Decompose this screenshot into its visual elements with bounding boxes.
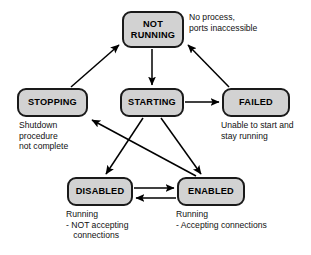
state-node-failed[interactable]: FAILED: [222, 88, 290, 117]
state-node-enabled-label: ENABLED: [188, 186, 234, 197]
edge-starting-to-enabled: [161, 118, 201, 174]
state-node-disabled[interactable]: DISABLED: [67, 177, 133, 206]
caption-disabled: Running - NOT accepting connections: [66, 209, 128, 241]
caption-stopping: Shutdown procedure not complete: [19, 120, 68, 152]
state-node-disabled-label: DISABLED: [76, 186, 125, 197]
state-node-starting[interactable]: STARTING: [120, 88, 184, 117]
state-node-stopping-label: STOPPING: [28, 97, 77, 108]
caption-enabled: Running - Accepting connections: [176, 209, 267, 230]
state-diagram: NOTRUNNING STOPPING STARTING FAILED DISA…: [0, 0, 311, 255]
edge-failed-to-not-running: [188, 45, 229, 87]
edge-stopping-to-not-running: [71, 45, 119, 87]
state-node-not-running[interactable]: NOTRUNNING: [122, 11, 184, 48]
caption-failed: Unable to start and stay running: [221, 120, 294, 141]
state-node-failed-label: FAILED: [239, 97, 273, 108]
caption-not-running: No process, ports inaccessible: [189, 12, 257, 33]
state-node-stopping[interactable]: STOPPING: [17, 88, 88, 117]
state-node-not-running-label: NOTRUNNING: [131, 19, 175, 41]
edge-enabled-to-stopping: [92, 120, 196, 176]
edge-starting-to-disabled: [106, 118, 143, 174]
state-node-enabled[interactable]: ENABLED: [177, 177, 245, 206]
state-node-starting-label: STARTING: [128, 97, 176, 108]
